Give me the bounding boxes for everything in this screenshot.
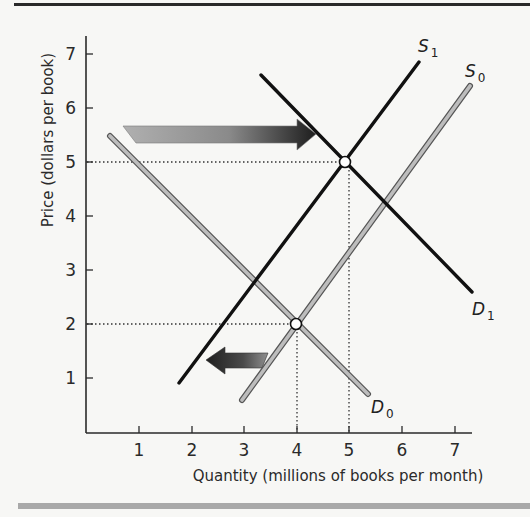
x-tick-label: 2: [187, 440, 198, 460]
y-tick-label: 7: [65, 44, 76, 64]
demand-curve-d1: [261, 75, 472, 292]
x-tick-label: 7: [450, 440, 461, 460]
bottom-rule: [18, 503, 530, 509]
y-tick-labels: 7 6 5 4 3 2 1: [65, 44, 76, 388]
supply-curve-s1: [179, 62, 419, 383]
x-tick-label: 5: [344, 440, 355, 460]
y-tick-label: 5: [65, 152, 76, 172]
supply-demand-chart: 7 6 5 4 3 2 1 1 2 3 4 5 6 7 Quantity (mi…: [0, 0, 530, 517]
curve-label-d1: D1: [472, 299, 495, 323]
y-tick-label: 6: [65, 98, 76, 118]
y-tick-label: 1: [65, 368, 76, 388]
x-axis-title: Quantity (millions of books per month): [193, 467, 484, 485]
equilibrium-point-new: [340, 157, 351, 168]
curve-label-s1: S1: [418, 36, 438, 60]
equilibrium-point-initial: [291, 319, 302, 330]
demand-shift-arrow-icon: [123, 119, 316, 150]
y-tick-label: 3: [65, 260, 76, 280]
x-tick-label: 6: [397, 440, 408, 460]
curve-label-d0: D0: [371, 397, 394, 421]
y-ticks: [86, 54, 93, 378]
x-tick-label: 3: [239, 440, 250, 460]
y-tick-label: 4: [65, 206, 76, 226]
curve-label-s0: S0: [465, 61, 485, 85]
x-tick-labels: 1 2 3 4 5 6 7: [134, 440, 461, 460]
y-tick-label: 2: [65, 314, 76, 334]
guide-lines: [87, 162, 349, 432]
supply-shift-arrow-icon: [206, 347, 268, 374]
x-tick-label: 1: [134, 440, 145, 460]
y-axis-title: Price (dollars per book): [39, 53, 57, 227]
x-tick-label: 4: [292, 440, 303, 460]
